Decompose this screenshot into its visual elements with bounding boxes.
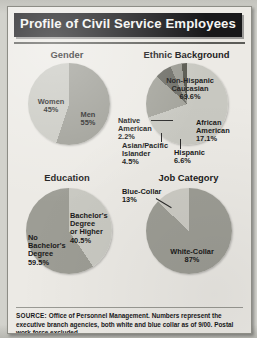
- title-divider: [14, 42, 245, 44]
- source-divider: [16, 307, 243, 308]
- chart-education-label-bachelors: Bachelor's Degree or Higher 40.5%: [70, 212, 116, 245]
- chart-gender-label-women: Women 45%: [34, 98, 68, 114]
- chart-job-category-label-white-collar: White-Collar 87%: [168, 248, 216, 264]
- chart-ethnic-title: Ethnic Background: [124, 49, 249, 60]
- chart-ethnic-label-caucasian: Non-Hispanic Caucasian 69.6%: [160, 77, 220, 102]
- title-bar: Profile of Civil Service Employees: [14, 13, 242, 37]
- chart-gender: Gender Women 45% Men 55%: [10, 49, 124, 157]
- chart-gender-label-men: Men 55%: [74, 111, 102, 127]
- source-note: SOURCE: Office of Personnel Management. …: [16, 312, 244, 334]
- leader-line-native-american: [151, 120, 173, 121]
- chart-education: Education Bachelor's Degree or Higher 40…: [10, 172, 124, 292]
- infographic-root: Profile of Civil Service Employees Gende…: [0, 0, 257, 338]
- page-title: Profile of Civil Service Employees: [14, 16, 242, 31]
- chart-ethnic: Ethnic Background Non-Hispanic Caucasian…: [124, 49, 249, 169]
- chart-ethnic-label-asian-pacific: Asian/Pacific Islander 4.5%: [122, 142, 170, 167]
- chart-ethnic-label-hispanic: Hispanic 6.6%: [174, 149, 214, 165]
- leader-line-asian-pacific: [161, 133, 162, 142]
- chart-gender-title: Gender: [10, 49, 124, 60]
- chart-job-category-label-blue-collar: Blue-Collar 13%: [122, 188, 166, 204]
- chart-education-title: Education: [10, 172, 124, 183]
- chart-education-label-no-bachelors: No Bachelor's Degree 59.5%: [28, 234, 70, 267]
- chart-job-category: Job Category Blue-Collar 13% White-Colla…: [128, 172, 249, 292]
- leader-line-hispanic: [180, 139, 181, 149]
- chart-job-category-title: Job Category: [128, 172, 249, 183]
- source-label: SOURCE:: [16, 312, 47, 319]
- chart-ethnic-label-african-american: African American 17.1%: [196, 119, 240, 144]
- infographic-card: Profile of Civil Service Employees Gende…: [7, 6, 252, 334]
- source-text: Office of Personnel Management. Numbers …: [16, 312, 233, 334]
